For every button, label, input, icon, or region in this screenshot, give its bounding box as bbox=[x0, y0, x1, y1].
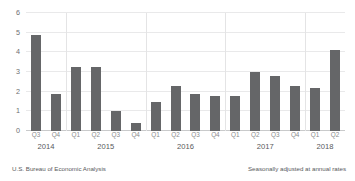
year-label: 2018 bbox=[317, 143, 334, 151]
quarter-label: Q2 bbox=[251, 132, 260, 138]
quarter-label: Q2 bbox=[171, 132, 180, 138]
year-label: 2017 bbox=[257, 143, 274, 151]
quarter-label: Q4 bbox=[211, 132, 220, 138]
quarter-label: Q1 bbox=[311, 132, 320, 138]
y-tick-label-4: 4 bbox=[16, 49, 20, 56]
bar bbox=[131, 123, 141, 131]
bar bbox=[31, 35, 41, 131]
bar-series bbox=[26, 13, 345, 131]
quarter-label: Q3 bbox=[271, 132, 280, 138]
adjustment-note: Seasonally adjusted at annual rates bbox=[248, 166, 346, 172]
y-axis-tick-labels: 0123456 bbox=[0, 13, 24, 131]
y-tick-label-3: 3 bbox=[16, 68, 20, 75]
chart-figure: 0123456 Q3Q4Q1Q2Q3Q4Q1Q2Q3Q4Q1Q2Q3Q4Q1Q2… bbox=[0, 0, 355, 181]
bar bbox=[230, 96, 240, 131]
bar bbox=[330, 50, 340, 131]
year-label: 2014 bbox=[37, 143, 54, 151]
quarter-label: Q3 bbox=[191, 132, 200, 138]
year-label: 2015 bbox=[97, 143, 114, 151]
y-tick-label-5: 5 bbox=[16, 29, 20, 36]
y-tick-label-2: 2 bbox=[16, 88, 20, 95]
quarter-label: Q4 bbox=[291, 132, 300, 138]
bar bbox=[151, 102, 161, 132]
bar bbox=[111, 111, 121, 131]
quarter-label: Q1 bbox=[151, 132, 160, 138]
bar bbox=[310, 88, 320, 131]
bar bbox=[71, 67, 81, 131]
x-axis-year-labels: 20142015201620172018 bbox=[26, 143, 345, 157]
bar bbox=[171, 86, 181, 131]
bar bbox=[290, 86, 300, 131]
bar bbox=[51, 94, 61, 131]
bar bbox=[270, 76, 280, 131]
quarter-label: Q4 bbox=[52, 132, 61, 138]
bar bbox=[91, 67, 101, 131]
chart-footer: U.S. Bureau of Economic Analysis Seasona… bbox=[0, 166, 355, 178]
quarter-label: Q1 bbox=[231, 132, 240, 138]
bar bbox=[210, 96, 220, 131]
y-tick-label-1: 1 bbox=[16, 108, 20, 115]
y-tick-label-0: 0 bbox=[16, 127, 20, 134]
quarter-label: Q4 bbox=[131, 132, 140, 138]
quarter-label: Q3 bbox=[111, 132, 120, 138]
quarter-label: Q3 bbox=[32, 132, 41, 138]
year-label: 2016 bbox=[177, 143, 194, 151]
quarter-label: Q2 bbox=[331, 132, 340, 138]
bar bbox=[250, 72, 260, 131]
bar bbox=[190, 94, 200, 131]
source-note: U.S. Bureau of Economic Analysis bbox=[12, 166, 106, 172]
plot-area bbox=[26, 13, 345, 131]
quarter-label: Q2 bbox=[92, 132, 101, 138]
quarter-label: Q1 bbox=[72, 132, 81, 138]
y-tick-label-6: 6 bbox=[16, 9, 20, 16]
